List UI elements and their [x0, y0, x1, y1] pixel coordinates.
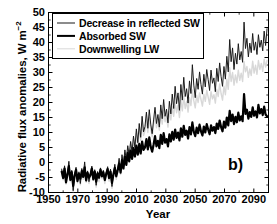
- x-axis-label: Year: [48, 208, 268, 220]
- panel-label: b): [228, 156, 243, 174]
- legend: Decrease in reflected SW Absorbed SW Dow…: [52, 13, 204, 59]
- x-tick-label: 2090: [234, 194, 274, 205]
- legend-item: Downwelling LW: [56, 42, 200, 55]
- legend-line-icon: [56, 43, 76, 54]
- radiative-flux-anomalies-figure: Radiative flux anomalies, W m−2 -10-5051…: [0, 0, 277, 224]
- legend-item: Decrease in reflected SW: [56, 16, 200, 29]
- legend-line-icon: [56, 30, 76, 41]
- legend-label: Downwelling LW: [79, 43, 159, 55]
- legend-line-icon: [56, 17, 76, 28]
- legend-label: Absorbed SW: [79, 30, 146, 42]
- legend-label: Decrease in reflected SW: [79, 17, 200, 29]
- legend-item: Absorbed SW: [56, 29, 200, 42]
